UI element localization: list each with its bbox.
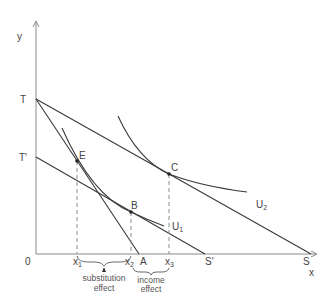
label-B: B	[131, 200, 138, 211]
y-axis-label: y	[17, 31, 22, 42]
indifference-curve-U2	[118, 116, 247, 192]
substitution-arrow-icon	[102, 267, 106, 272]
label-T: T	[20, 94, 26, 105]
label-C: C	[171, 162, 178, 173]
budget-line-TprimeSprime	[36, 157, 205, 254]
income-effect-brace	[133, 268, 169, 275]
income-effect-label-line2: effect	[141, 284, 162, 294]
x-axis-label: x	[309, 267, 314, 278]
label-U2: U2	[256, 199, 267, 211]
label-T-prime: T'	[19, 152, 27, 163]
diagram-canvas: y x 0 T T' E B C A S' S U1 U2 x1 x2 x3 s…	[0, 0, 335, 301]
substitution-effect-label-line1: substitution	[83, 273, 126, 283]
label-S-prime: S'	[205, 256, 214, 267]
label-E: E	[79, 150, 86, 161]
label-A: A	[140, 256, 147, 267]
origin-label: 0	[25, 256, 31, 267]
substitution-effect-label-line2: effect	[94, 283, 115, 293]
label-S: S	[303, 256, 310, 267]
label-x2: x2	[125, 256, 134, 268]
substitution-effect-brace	[77, 256, 131, 266]
budget-line-TA	[36, 99, 139, 254]
label-U1: U1	[172, 221, 183, 233]
label-x3: x3	[165, 256, 174, 268]
